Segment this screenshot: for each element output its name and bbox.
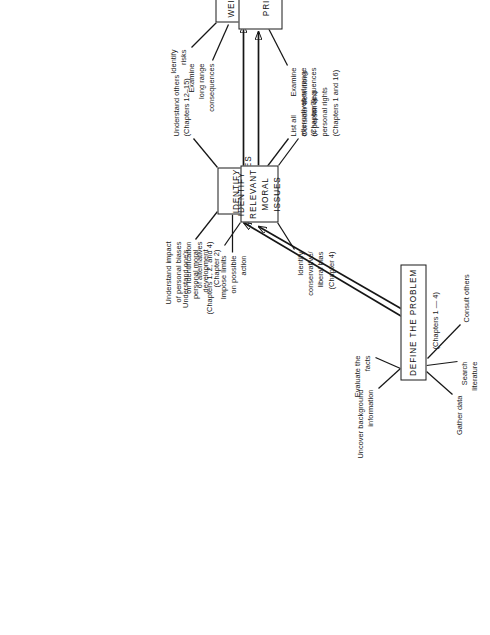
label-chapters-1-4: (Chapters 1 — 4) <box>430 292 440 349</box>
node-weight-or-prioritize-values[interactable]: WEIGHT OR PRIORITIZE VALUES <box>238 0 282 29</box>
diagram-page: DEFINE THE PROBLEM IDENTIFY ALTERNATIVES… <box>0 0 490 635</box>
label-identify-conservative-liberal-bias: Identify conservative/ liberal bias (Cha… <box>295 251 336 327</box>
label-evaluate-the-facts: Evaluate the facts <box>352 355 372 413</box>
label-consider-definitions-of-person-and-personal-rights: Consider definitions of person and perso… <box>299 69 340 136</box>
label-consult-others: Consult others <box>461 274 471 322</box>
label-identify-risks: Identify risks <box>168 49 188 95</box>
diagram-canvas: DEFINE THE PROBLEM IDENTIFY ALTERNATIVES… <box>0 0 490 635</box>
label-understand-ones-personal-moral-development: Understand one's personal moral developm… <box>180 249 221 335</box>
label-search-literature: Search literature <box>459 361 479 407</box>
node-define-the-problem[interactable]: DEFINE THE PROBLEM <box>400 264 426 380</box>
node-identify-relevant-moral-issues[interactable]: IDENTIFY RELEVANT MORAL ISSUES <box>240 165 278 222</box>
label-examine-long-range-consequences: Examine long range consequences <box>186 63 217 137</box>
label-impose-limits-on-possible-action: Impose limits on possible action <box>218 255 249 315</box>
